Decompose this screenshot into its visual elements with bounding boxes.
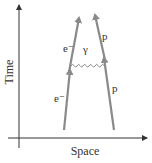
electron-incoming-label: e⁻	[54, 92, 65, 104]
electron-worldline	[64, 18, 79, 130]
proton-outgoing-label: p	[102, 30, 108, 42]
photon-label: γ	[82, 43, 88, 55]
proton-incoming-label: p	[112, 82, 118, 94]
space-axis-label: Space	[71, 144, 100, 158]
photon-wavy-line	[71, 64, 106, 67]
feynman-diagram: Time Space e⁻ γ p e⁻ p	[0, 0, 152, 163]
electron-outgoing-label: e⁻	[63, 42, 74, 54]
time-axis-label: Time	[2, 60, 16, 85]
